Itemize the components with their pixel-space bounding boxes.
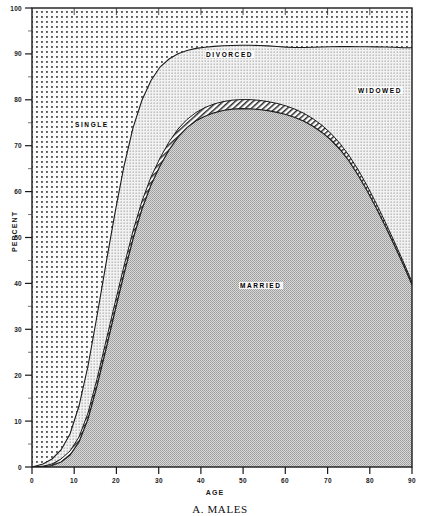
region-label-widowed-text: WIDOWED [357, 87, 403, 94]
y-tick-0: 0 [0, 464, 22, 471]
x-tick-90: 90 [402, 477, 422, 484]
region-label-married: MARRIED [239, 282, 283, 289]
x-tick-70: 70 [318, 477, 338, 484]
region-label-single: SINGLE [74, 121, 110, 128]
y-tick-100: 100 [0, 5, 22, 12]
y-tick-90: 90 [0, 50, 22, 57]
x-tick-80: 80 [360, 477, 380, 484]
region-label-married-text: MARRIED [239, 282, 283, 289]
x-axis-ticks [32, 467, 412, 474]
region-label-divorced-text: DIVORCED [205, 51, 254, 58]
chart-figure [0, 0, 441, 516]
x-tick-30: 30 [149, 477, 169, 484]
y-tick-10: 10 [0, 418, 22, 425]
x-tick-0: 0 [22, 477, 42, 484]
figure-caption: A. MALES [120, 503, 320, 515]
x-tick-50: 50 [233, 477, 253, 484]
y-tick-30: 30 [0, 326, 22, 333]
y-tick-70: 70 [0, 142, 22, 149]
y-axis-title: PERCENT [11, 209, 18, 255]
region-label-widowed: WIDOWED [357, 87, 403, 94]
y-tick-60: 60 [0, 188, 22, 195]
x-tick-20: 20 [106, 477, 126, 484]
x-tick-40: 40 [191, 477, 211, 484]
y-tick-20: 20 [0, 372, 22, 379]
y-tick-80: 80 [0, 96, 22, 103]
x-tick-10: 10 [64, 477, 84, 484]
y-tick-40: 40 [0, 280, 22, 287]
region-label-divorced: DIVORCED [205, 51, 254, 58]
region-label-single-text: SINGLE [74, 121, 110, 128]
x-tick-60: 60 [275, 477, 295, 484]
x-axis-title: AGE [185, 489, 245, 496]
